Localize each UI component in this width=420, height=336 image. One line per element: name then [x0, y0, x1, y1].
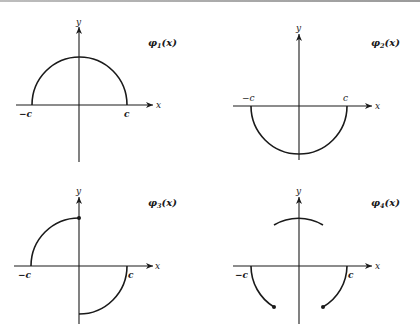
closed-endpoint-dot: [77, 216, 81, 220]
panel-title: φ3(x): [148, 197, 177, 210]
x-axis-label: x: [155, 261, 160, 271]
y-axis-label: y: [295, 186, 302, 196]
tick-label-c: c: [348, 270, 354, 280]
panel-title: φ4(x): [371, 197, 400, 210]
lower-right-arc-curve: [79, 266, 127, 314]
lower-right-arc-curve: [323, 266, 347, 307]
lower-left-arc-curve: [251, 266, 274, 307]
tick-label-neg-c: −c: [242, 93, 255, 103]
y-axis-label: y: [295, 23, 302, 33]
x-axis-label: x: [156, 100, 161, 110]
tick-label-c: c: [343, 93, 348, 103]
y-axis-label: y: [75, 17, 82, 27]
diagram-canvas: x y −c c φ1(x) x y −c c φ2(x) x y −c c φ…: [0, 0, 420, 336]
closed-endpoint-dot-right: [321, 305, 325, 309]
x-axis-label: x: [375, 101, 380, 111]
panel-title: φ2(x): [371, 37, 400, 50]
panel-phi4: x y −c c φ4(x): [233, 186, 400, 324]
y-axis-label: y: [75, 186, 82, 196]
x-axis-label: x: [375, 261, 380, 271]
tick-label-neg-c: −c: [18, 270, 32, 280]
tick-label-c: c: [124, 109, 130, 119]
tick-label-c: c: [128, 270, 134, 280]
closed-endpoint-dot-left: [272, 305, 276, 309]
upper-left-arc-curve: [31, 218, 79, 266]
panel-title: φ1(x): [148, 37, 177, 50]
panel-phi3: x y −c c φ3(x): [14, 186, 177, 324]
tick-label-neg-c: −c: [19, 109, 33, 119]
tick-label-neg-c: −c: [235, 270, 249, 280]
panel-phi1: x y −c c φ1(x): [16, 17, 177, 162]
panel-phi2: x y −c c φ2(x): [233, 23, 400, 160]
